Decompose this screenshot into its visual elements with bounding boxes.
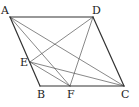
label-c: C — [121, 89, 129, 100]
label-d: D — [92, 5, 101, 16]
label-a: A — [1, 5, 9, 16]
side-ab — [10, 17, 40, 86]
label-b: B — [37, 89, 45, 100]
side-cd — [93, 17, 124, 86]
label-e: E — [20, 57, 28, 68]
geometry-figure: A D E B F C — [0, 0, 139, 107]
segment-ef — [30, 62, 70, 86]
segment-de — [30, 17, 93, 62]
segment-af — [10, 17, 70, 86]
segment-df — [70, 17, 93, 86]
label-f: F — [67, 89, 75, 100]
segment-ac — [10, 17, 124, 86]
